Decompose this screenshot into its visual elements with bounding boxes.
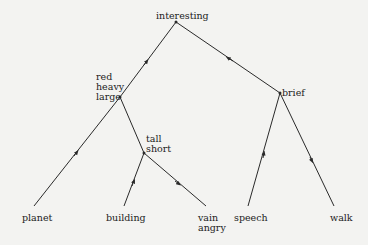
edge-building-to-tall-short [124,153,144,206]
node-label-brief: brief [282,88,305,98]
edge-large-to-tall-short [120,97,144,153]
edge-walk-to-brief [280,93,334,206]
leaf-label-vain-angry: vain angry [198,213,226,233]
arrow-brief-to-interesting [228,58,233,61]
node-label-red-heavy-large: red heavy large [96,72,124,102]
edge-brief-to-interesting [176,22,280,93]
leaf-label-building: building [106,213,146,223]
leaf-label-speech: speech [234,213,268,223]
node-label-interesting: interesting [156,11,209,21]
arrow-large-to-interesting [144,61,147,65]
edge-vain-to-tall-short [144,153,206,206]
node-label-tall-short: tall short [146,134,171,154]
semantic-tree-diagram: interesting red heavy large tall short b… [0,0,368,245]
tree-edges [0,0,368,245]
edge-large-to-interesting [120,22,176,97]
edge-planet-to-large [34,97,120,206]
edge-speech-to-brief [248,93,280,206]
leaf-label-planet: planet [22,213,52,223]
leaf-label-walk: walk [330,213,353,223]
